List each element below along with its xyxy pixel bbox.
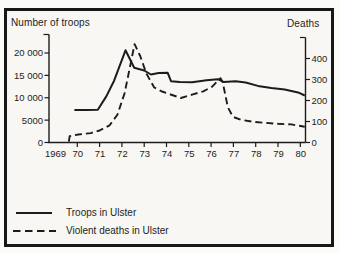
left-axis-tick-label: 0 [38,137,43,148]
violent-deaths-in-ulster-line [69,44,305,142]
x-axis-tick-label: 79 [273,148,284,159]
left-axis-tick-label: 15 000 [14,70,43,81]
x-axis-tick-label: 77 [229,148,240,159]
x-axis-tick-label: 76 [206,148,217,159]
x-axis-tick-label: 71 [95,148,106,159]
right-axis-title: Deaths [287,18,319,29]
left-axis-title: Number of troops [11,17,90,28]
troops-in-ulster-line [74,50,304,110]
legend-label-troops: Troops in Ulster [66,207,136,219]
right-axis-tick-label: 400 [312,53,328,64]
legend-label-violent-deaths: Violent deaths in Ulster [66,225,169,237]
x-axis-tick-label: 72 [117,148,128,159]
x-axis-tick-label: 73 [139,148,150,159]
left-axis-tick-label: 20 000 [14,47,43,58]
x-axis-tick-label: 74 [162,148,173,159]
scanned-figure: 20 00015 00010 0005000040030020010001969… [0,0,340,253]
right-axis-tick-label: 0 [312,137,317,148]
x-axis-tick-label: 70 [73,148,84,159]
x-axis-tick-label: 78 [251,148,262,159]
right-axis-tick-label: 100 [312,116,328,127]
left-axis-tick-label: 10 000 [14,92,43,103]
right-axis-tick-label: 200 [312,95,328,106]
legend-solid-line-swatch [15,210,53,216]
right-axis-tick-label: 300 [312,74,328,85]
x-axis-tick-label: 80 [296,148,307,159]
left-axis-tick-label: 5000 [22,115,43,126]
x-axis-tick-label: 1969 [45,148,66,159]
x-axis-tick-label: 75 [184,148,195,159]
legend-dashed-line-swatch [12,228,57,234]
